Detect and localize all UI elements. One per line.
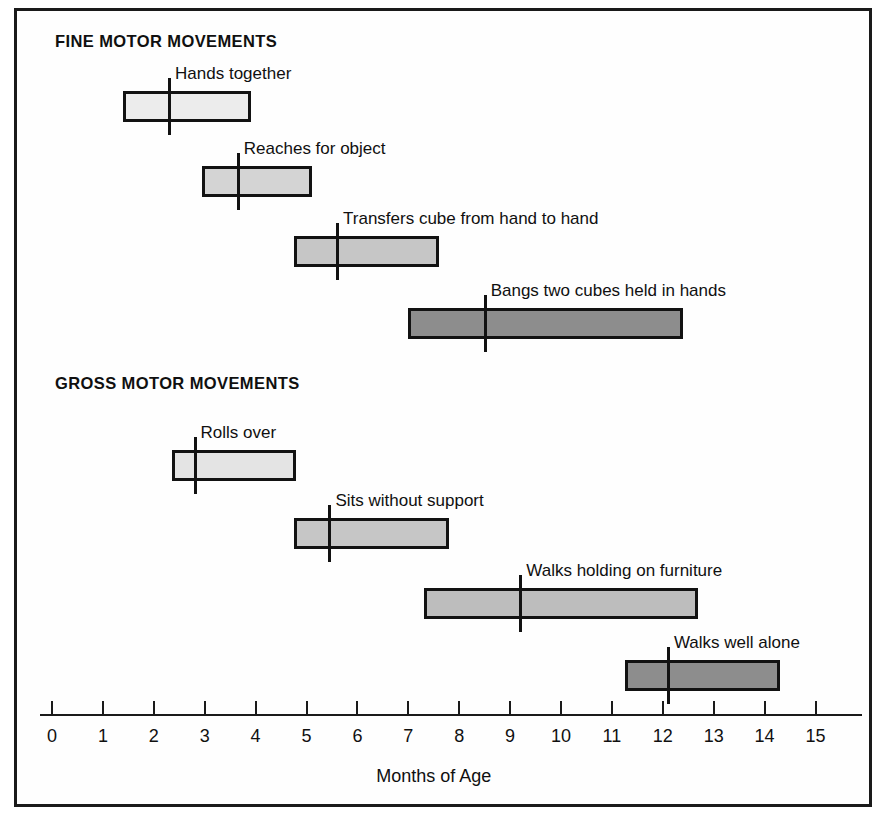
x-axis-tick [458,701,460,714]
milestone-range-bar[interactable] [294,236,439,267]
milestone-median-marker [237,153,240,210]
x-axis-title: Months of Age [52,766,816,787]
section-title-gross: GROSS MOTOR MOVEMENTS [55,374,300,393]
x-axis-tick-label: 15 [796,726,836,747]
x-axis-tick-label: 14 [745,726,785,747]
figure-canvas: FINE MOTOR MOVEMENTSGROSS MOTOR MOVEMENT… [0,0,888,822]
milestone-label: Hands together [175,64,291,84]
x-axis-tick [102,701,104,714]
x-axis-tick [764,701,766,714]
x-axis-tick-label: 4 [236,726,276,747]
section-title-fine: FINE MOTOR MOVEMENTS [55,32,277,51]
milestone-range-bar[interactable] [625,660,780,691]
milestone-range-bar[interactable] [424,588,699,619]
x-axis-tick [407,701,409,714]
milestone-label: Transfers cube from hand to hand [343,209,598,229]
milestone-median-marker [336,223,339,280]
milestone-median-marker [328,505,331,562]
milestone-range-bar[interactable] [172,450,297,481]
milestone-range-bar[interactable] [408,308,683,339]
milestone-label: Sits without support [335,491,483,511]
x-axis-tick-label: 5 [287,726,327,747]
milestone-label: Walks well alone [674,633,800,653]
x-axis-tick-label: 9 [490,726,530,747]
x-axis-tick-label: 6 [337,726,377,747]
x-axis-tick [713,701,715,714]
milestone-range-bar[interactable] [202,166,311,197]
milestone-label: Rolls over [201,423,277,443]
milestone-median-marker [519,575,522,632]
milestone-label: Reaches for object [244,139,386,159]
milestone-median-marker [194,437,197,494]
x-axis-tick-label: 7 [388,726,428,747]
x-axis-tick-label: 12 [643,726,683,747]
x-axis-tick [204,701,206,714]
x-axis-tick [815,701,817,714]
x-axis-tick-label: 8 [439,726,479,747]
milestone-range-bar[interactable] [123,91,250,122]
x-axis-tick [662,701,664,714]
x-axis-tick [306,701,308,714]
milestone-median-marker [667,647,670,704]
x-axis-tick-label: 11 [592,726,632,747]
chart-plot-area: FINE MOTOR MOVEMENTSGROSS MOTOR MOVEMENT… [0,0,888,822]
x-axis-tick [255,701,257,714]
x-axis-tick-label: 10 [541,726,581,747]
x-axis-tick-label: 13 [694,726,734,747]
x-axis-tick [509,701,511,714]
x-axis-tick [356,701,358,714]
x-axis-tick [51,701,53,714]
x-axis-tick-label: 2 [134,726,174,747]
x-axis-tick [153,701,155,714]
milestone-label: Walks holding on furniture [526,561,722,581]
x-axis-line [40,714,862,716]
x-axis-tick [611,701,613,714]
milestone-range-bar[interactable] [294,518,449,549]
milestone-median-marker [168,78,171,135]
x-axis-tick-label: 1 [83,726,123,747]
x-axis-tick-label: 3 [185,726,225,747]
x-axis-tick-label: 0 [32,726,72,747]
milestone-median-marker [484,295,487,352]
milestone-label: Bangs two cubes held in hands [491,281,726,301]
x-axis-tick [560,701,562,714]
